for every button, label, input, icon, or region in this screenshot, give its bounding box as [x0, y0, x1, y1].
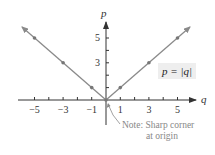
- data-point: [176, 36, 180, 40]
- abs-value-chart: −5 −3 −1 1 3 5 q 3 5 p: [0, 0, 215, 155]
- equation-text: p = |q|: [161, 65, 192, 77]
- equation-label: p = |q|: [158, 63, 196, 79]
- x-tick-label: −3: [58, 104, 69, 115]
- data-point-origin: [104, 98, 108, 102]
- note-line-2: at origin: [146, 131, 178, 141]
- y-tick-label: 5: [95, 32, 100, 43]
- x-tick-label: −1: [86, 104, 97, 115]
- x-tick-label: 5: [175, 104, 180, 115]
- y-tick-label: 3: [95, 57, 100, 68]
- data-point: [147, 61, 151, 65]
- x-tick-label: 1: [118, 104, 123, 115]
- x-axis-label: q: [201, 93, 207, 105]
- data-point: [61, 61, 65, 65]
- x-tick-label: −5: [29, 104, 40, 115]
- x-axis: −5 −3 −1 1 3 5 q: [18, 93, 207, 115]
- note-line-1: Note: Sharp corner: [122, 120, 195, 130]
- x-tick-label: 3: [146, 104, 151, 115]
- y-axis-label: p: [100, 7, 107, 19]
- data-point: [90, 86, 94, 90]
- data-point: [119, 86, 123, 90]
- data-point: [33, 36, 37, 40]
